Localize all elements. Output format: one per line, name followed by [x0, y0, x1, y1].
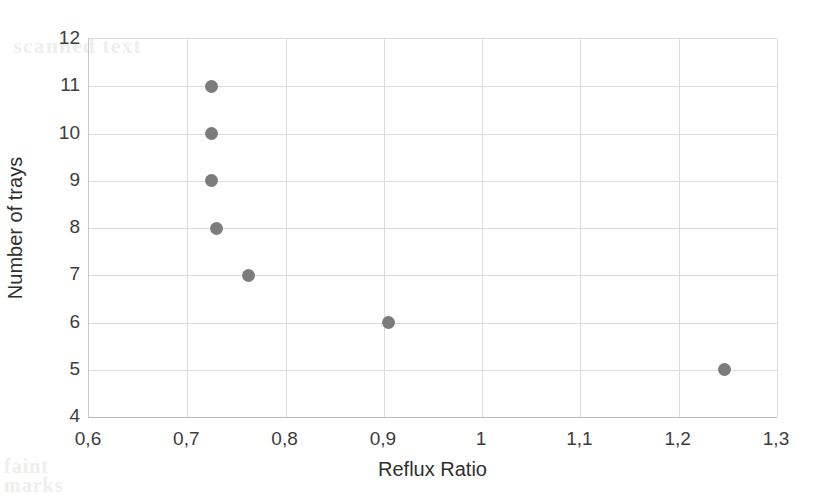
gridline-vertical	[187, 39, 188, 417]
gridline-horizontal	[89, 228, 777, 229]
data-point	[205, 127, 218, 140]
y-axis-tick-labels: 456789101112	[22, 38, 80, 418]
y-axis-tick-label: 10	[34, 122, 80, 144]
gridline-vertical	[286, 39, 287, 417]
gridline-vertical	[384, 39, 385, 417]
gridline-horizontal	[89, 370, 777, 371]
data-point	[242, 269, 255, 282]
data-point	[210, 222, 223, 235]
y-axis-tick-label: 4	[34, 405, 80, 427]
gridline-horizontal	[89, 275, 777, 276]
data-point	[382, 316, 395, 329]
x-axis-tick-label: 0,7	[151, 428, 221, 450]
x-axis-title: Reflux Ratio	[88, 458, 777, 481]
x-axis-tick-label: 1	[446, 428, 516, 450]
x-axis-tick-label: 1,3	[741, 428, 811, 450]
y-axis-tick-label: 9	[34, 169, 80, 191]
gridline-horizontal	[89, 323, 777, 324]
y-axis-tick-label: 12	[34, 27, 80, 49]
gridline-horizontal	[89, 181, 777, 182]
x-axis-tick-labels: 0,60,70,80,911,11,21,3	[88, 428, 777, 454]
x-axis-tick-label: 1,1	[544, 428, 614, 450]
y-axis-tick-label: 7	[34, 263, 80, 285]
data-point	[205, 80, 218, 93]
gridline-vertical	[580, 39, 581, 417]
gridline-vertical	[777, 39, 778, 417]
gridline-horizontal	[89, 86, 777, 87]
y-axis-tick-label: 11	[34, 74, 80, 96]
y-axis-tick-label: 5	[34, 358, 80, 380]
y-axis-tick-label: 6	[34, 311, 80, 333]
data-point	[205, 174, 218, 187]
x-axis-tick-label: 1,2	[643, 428, 713, 450]
gridline-horizontal	[89, 134, 777, 135]
gridline-vertical	[679, 39, 680, 417]
data-point	[718, 363, 731, 376]
scan-artifact-bottom-second: marks	[4, 474, 63, 497]
x-axis-tick-label: 0,8	[250, 428, 320, 450]
x-axis-tick-label: 0,6	[53, 428, 123, 450]
scatter-chart-figure: scanned text faint marks Number of trays…	[0, 0, 818, 497]
x-axis-tick-label: 0,9	[348, 428, 418, 450]
y-axis-tick-label: 8	[34, 216, 80, 238]
plot-area	[88, 38, 777, 418]
gridline-vertical	[482, 39, 483, 417]
